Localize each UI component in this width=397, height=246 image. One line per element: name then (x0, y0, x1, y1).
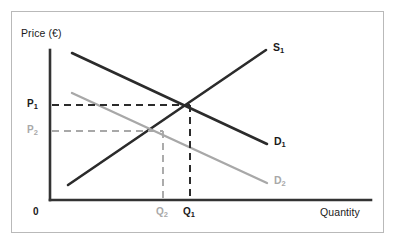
quantity-label-q1-subscript: 1 (191, 210, 195, 219)
demand-curve-d2 (72, 93, 267, 183)
quantity-label-q2: Q2 (156, 207, 168, 217)
price-label-p2-subscript: 2 (34, 128, 38, 137)
curve-label-s1: S1 (273, 42, 284, 53)
curve-label-d2-subscript: 2 (282, 179, 286, 188)
price-label-p1-subscript: 1 (34, 102, 38, 111)
curve-label-d2: D2 (274, 175, 286, 186)
quantity-label-q1-base: Q (183, 206, 191, 217)
curve-label-d1-base: D (274, 135, 282, 147)
curve-label-d1-subscript: 1 (282, 140, 286, 149)
quantity-label-q1: Q1 (183, 207, 195, 217)
price-label-p2: P2 (27, 125, 38, 135)
price-label-p1-base: P (27, 98, 34, 109)
price-label-p2-base: P (27, 124, 34, 135)
curve-label-s1-subscript: 1 (280, 46, 284, 55)
curve-label-d2-base: D (274, 174, 282, 186)
curve-label-s1-base: S (273, 41, 280, 53)
curve-label-d1: D1 (274, 136, 286, 147)
quantity-label-q2-subscript: 2 (164, 210, 168, 219)
origin-label: 0 (33, 207, 39, 217)
quantity-label-q2-base: Q (156, 206, 164, 217)
y-axis-title: Price (€) (21, 28, 62, 39)
price-label-p1: P1 (27, 99, 38, 109)
x-axis-title: Quantity (320, 207, 360, 218)
supply-demand-figure: Price (€) Quantity 0 P1 P2 Q2 Q1 S1 D1 D… (0, 0, 397, 246)
supply-curve-s1 (68, 50, 266, 185)
